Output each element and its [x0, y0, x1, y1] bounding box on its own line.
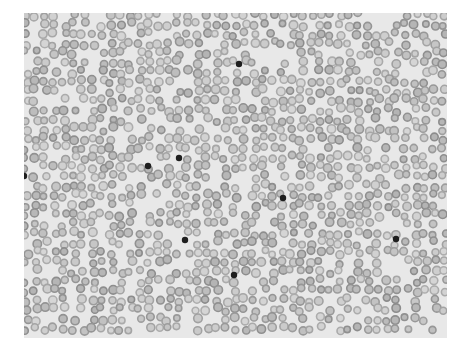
blood-smear-image: Blood smear micrograph showing numerous … [24, 13, 447, 338]
dark-stained-cell [280, 195, 286, 201]
dark-stained-cell [236, 61, 242, 67]
dark-stained-cell [145, 163, 151, 169]
dark-stained-cell [176, 155, 182, 161]
dark-stained-cell [393, 236, 399, 242]
dark-stained-cell [24, 173, 27, 179]
red-blood-cells [24, 13, 447, 338]
dark-stained-cell [182, 237, 188, 243]
dark-stained-cell [231, 272, 237, 278]
